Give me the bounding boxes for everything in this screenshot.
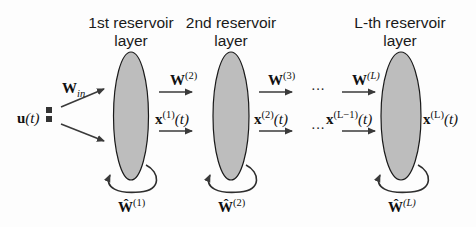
wL-sup: (L) bbox=[367, 70, 380, 81]
xL-sup: (L) bbox=[431, 109, 444, 120]
weight-label-L: W(L) bbox=[352, 72, 380, 88]
xLm1-sup: (L−1) bbox=[334, 109, 359, 120]
w2-sup: (2) bbox=[185, 70, 197, 81]
deep-reservoir-diagram: 1st reservoir layer 2nd reservoir layer … bbox=[0, 0, 476, 227]
state-label-2: x(2)(t) bbox=[254, 111, 288, 127]
layer-L-title: L-th reservoir layer bbox=[354, 14, 445, 50]
x2-symbol: x bbox=[254, 111, 262, 127]
ellipsis-states: ··· bbox=[311, 121, 325, 137]
ellipsis-weights: ··· bbox=[311, 82, 325, 98]
xL-arg: (t) bbox=[444, 111, 458, 127]
state-label-L-minus-1: x(L−1)(t) bbox=[326, 111, 372, 127]
state-label-1: x(1)(t) bbox=[155, 111, 189, 127]
layer-L-title-line2: layer bbox=[354, 32, 445, 50]
layer-2-title: 2nd reservoir layer bbox=[186, 14, 276, 50]
weight-label-3: W(3) bbox=[268, 72, 295, 88]
wL-symbol: W bbox=[352, 72, 367, 88]
w2-symbol: W bbox=[170, 72, 185, 88]
w-hat-2-symbol: Ŵ bbox=[218, 199, 233, 215]
layer-2-title-line2: layer bbox=[186, 32, 276, 50]
w-hat-1-sup: (1) bbox=[133, 197, 145, 208]
recurrent-weight-label-L: Ŵ(L) bbox=[388, 199, 416, 215]
input-arg: (t) bbox=[25, 110, 39, 126]
layer-L-title-line1: L-th reservoir bbox=[354, 14, 445, 32]
recurrent-weight-label-2: Ŵ(2) bbox=[218, 199, 245, 215]
input-label: u(t) bbox=[17, 110, 40, 126]
w-hat-L-sup: (L) bbox=[403, 197, 416, 208]
state-label-L: x(L)(t) bbox=[423, 111, 458, 127]
win-symbol: W bbox=[62, 80, 77, 96]
reservoir-layer-L bbox=[381, 52, 421, 180]
layer-1-title: 1st reservoir layer bbox=[88, 14, 173, 50]
x1-arg: (t) bbox=[175, 111, 189, 127]
w-hat-2-sup: (2) bbox=[233, 197, 245, 208]
recurrent-weight-label-1: Ŵ(1) bbox=[118, 199, 145, 215]
layer-1-title-line2: layer bbox=[88, 32, 173, 50]
layer-1-title-line1: 1st reservoir bbox=[88, 14, 173, 32]
win-subscript: in bbox=[77, 88, 85, 99]
x1-symbol: x bbox=[155, 111, 163, 127]
input-arrow-lower bbox=[61, 124, 104, 141]
x2-arg: (t) bbox=[274, 111, 288, 127]
input-square-top bbox=[46, 107, 52, 113]
w3-sup: (3) bbox=[283, 70, 295, 81]
w-hat-1-symbol: Ŵ bbox=[118, 199, 133, 215]
input-square-bottom bbox=[46, 116, 52, 122]
xLm1-symbol: x bbox=[326, 111, 334, 127]
layer-2-title-line1: 2nd reservoir bbox=[186, 14, 276, 32]
w-hat-L-symbol: Ŵ bbox=[388, 199, 403, 215]
input-weight-label: Win bbox=[62, 80, 85, 96]
x1-sup: (1) bbox=[163, 109, 175, 120]
w3-symbol: W bbox=[268, 72, 283, 88]
x2-sup: (2) bbox=[262, 109, 274, 120]
reservoir-layer-2 bbox=[213, 52, 249, 180]
xLm1-arg: (t) bbox=[358, 111, 372, 127]
xL-symbol: x bbox=[423, 111, 431, 127]
reservoir-layer-1 bbox=[114, 52, 149, 180]
weight-label-2: W(2) bbox=[170, 72, 197, 88]
